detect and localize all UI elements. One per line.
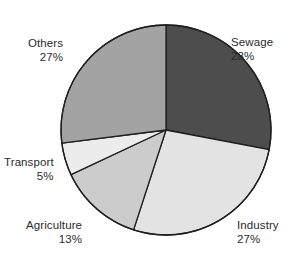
slice-label-agriculture-value: 13% [26, 232, 82, 246]
slice-label-sewage-value: 28% [231, 49, 273, 63]
slice-label-industry-name: Industry [237, 218, 279, 232]
slice-label-agriculture-name: Agriculture [26, 218, 82, 232]
slice-label-others: Others 27% [28, 36, 63, 64]
slice-label-sewage-name: Sewage [231, 35, 273, 49]
slice-label-transport-value: 5% [4, 169, 54, 183]
slice-label-agriculture: Agriculture 13% [26, 218, 82, 246]
slice-label-others-value: 27% [28, 50, 63, 64]
slice-label-sewage: Sewage 28% [231, 35, 273, 63]
slice-label-industry: Industry 27% [237, 218, 279, 246]
slice-label-transport: Transport 5% [4, 155, 54, 183]
slice-label-others-name: Others [28, 36, 63, 50]
slice-label-transport-name: Transport [4, 155, 54, 169]
pie-chart: Sewage 28% Industry 27% Agriculture 13% … [0, 0, 298, 263]
pie-slice-others [61, 25, 166, 143]
slice-label-industry-value: 27% [237, 232, 279, 246]
